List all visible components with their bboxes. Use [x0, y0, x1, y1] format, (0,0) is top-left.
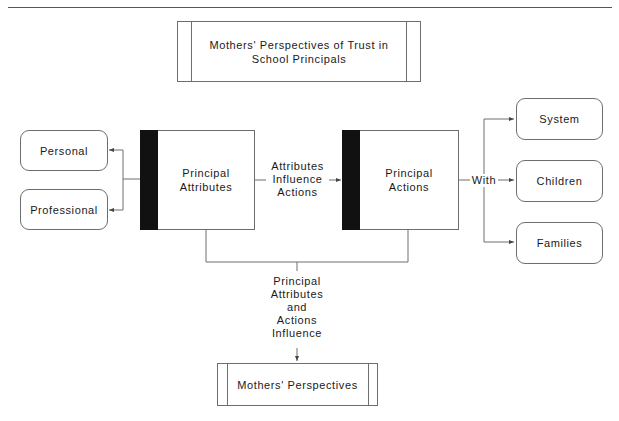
box-right-rule	[368, 364, 369, 405]
title-box: Mothers' Perspectives of Trust in School…	[177, 21, 421, 82]
title-box-left-rule	[191, 22, 192, 81]
box-left-rule	[227, 364, 228, 405]
node-professional: Professional	[20, 189, 108, 230]
title-line-2: School Principals	[209, 52, 388, 66]
title-line-1: Mothers' Perspectives of Trust in	[209, 38, 388, 52]
node-families-label: Families	[537, 236, 583, 250]
edge-label-with: With	[470, 174, 498, 187]
node-label-line-2: Attributes	[180, 180, 232, 194]
node-system: System	[516, 98, 603, 140]
node-mothers-perspectives-label: Mothers' Perspectives	[237, 378, 357, 392]
edge-label-line: Influence	[266, 173, 329, 186]
node-principal-actions: Principal Actions	[342, 130, 459, 230]
node-personal: Personal	[20, 130, 108, 171]
node-system-label: System	[539, 112, 579, 126]
node-label-line-2: Actions	[385, 180, 433, 194]
node-personal-label: Personal	[40, 144, 88, 158]
edge-label-line: and	[262, 301, 332, 314]
edge-label-line: Attributes	[266, 160, 329, 173]
node-mothers-perspectives: Mothers' Perspectives	[217, 363, 378, 406]
edge-label-line: Actions	[262, 314, 332, 327]
edge-label-line: Principal	[262, 275, 332, 288]
title-box-right-rule	[406, 22, 407, 81]
diagram-title: Mothers' Perspectives of Trust in School…	[209, 38, 388, 66]
node-label-line-1: Principal	[385, 166, 433, 180]
node-children-label: Children	[537, 174, 583, 188]
node-accent-bar	[342, 130, 360, 230]
edge-label-line: Actions	[266, 186, 329, 199]
node-principal-attributes: Principal Attributes	[140, 130, 255, 230]
edge-label-line: Influence	[262, 327, 332, 340]
edge-label-attributes-influence-actions: Attributes Influence Actions	[266, 160, 329, 199]
node-professional-label: Professional	[30, 203, 98, 217]
node-accent-bar	[140, 130, 158, 230]
edge-label-combined-influence: Principal Attributes and Actions Influen…	[262, 275, 332, 340]
node-children: Children	[516, 160, 603, 202]
node-label-line-1: Principal	[180, 166, 232, 180]
edge-label-line: Attributes	[262, 288, 332, 301]
edge-label-with-text: With	[472, 174, 496, 186]
node-families: Families	[516, 222, 603, 264]
